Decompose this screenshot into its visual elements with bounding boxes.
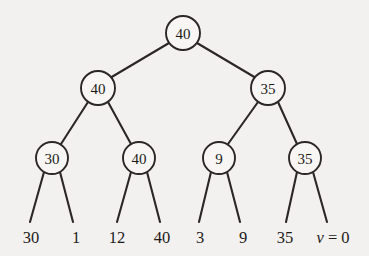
edge-group xyxy=(30,43,327,222)
node-label-right-left: 9 xyxy=(215,151,223,167)
leaf-value-2: 12 xyxy=(109,228,126,247)
tree-node-left-left[interactable]: 30 xyxy=(36,142,68,174)
tree-node-left-right[interactable]: 40 xyxy=(123,142,155,174)
leaf-value-6: 35 xyxy=(277,228,294,247)
tree-node-right-left[interactable]: 9 xyxy=(203,142,235,174)
leaf-value-1: 1 xyxy=(72,228,80,247)
edge-node30-to-leaf-30 xyxy=(30,172,44,222)
node-label-right-right: 35 xyxy=(298,151,313,167)
edge-node35b-to-leaf-v0 xyxy=(313,172,327,222)
leaf-value-4: 3 xyxy=(196,228,204,247)
edge-node9-to-leaf-9 xyxy=(227,172,240,222)
node-label-left: 40 xyxy=(91,81,106,97)
leaf-value-0: 30 xyxy=(23,228,40,247)
edge-root-to-right xyxy=(197,43,256,78)
node-group: 40 40 35 30 40 9 xyxy=(36,16,321,174)
edge-node35b-to-leaf-35 xyxy=(286,172,297,222)
edge-left-to-leftleft xyxy=(61,102,88,144)
tree-svg-canvas: 40 40 35 30 40 9 xyxy=(0,0,369,256)
node-label-root: 40 xyxy=(176,26,191,42)
variable-v-assignment: = 0 xyxy=(324,228,350,247)
tree-node-right-right[interactable]: 35 xyxy=(289,142,321,174)
leaf-label-group: 30 1 12 40 3 9 35 v = 0 xyxy=(23,228,350,247)
edge-node40b-to-leaf-12 xyxy=(117,172,131,222)
tree-node-root[interactable]: 40 xyxy=(166,16,200,50)
leaf-value-3: 40 xyxy=(154,228,171,247)
edge-left-to-leftright xyxy=(108,102,131,144)
edge-root-to-left xyxy=(110,43,169,78)
node-label-right: 35 xyxy=(261,81,276,97)
tree-node-left[interactable]: 40 xyxy=(81,71,115,105)
leaf-value-7-annotation: v = 0 xyxy=(316,228,349,247)
leaf-value-5: 9 xyxy=(239,228,247,247)
edge-node30-to-leaf-1 xyxy=(60,172,73,222)
tree-diagram: 40 40 35 30 40 9 xyxy=(0,0,369,256)
tree-node-right[interactable]: 35 xyxy=(251,71,285,105)
edge-right-to-rightleft xyxy=(228,102,258,144)
edge-right-to-rightright xyxy=(278,102,297,144)
node-label-left-right: 40 xyxy=(132,151,147,167)
edge-node9-to-leaf-3 xyxy=(199,172,211,222)
edge-node40b-to-leaf-40 xyxy=(147,172,160,222)
node-label-left-left: 30 xyxy=(45,151,60,167)
